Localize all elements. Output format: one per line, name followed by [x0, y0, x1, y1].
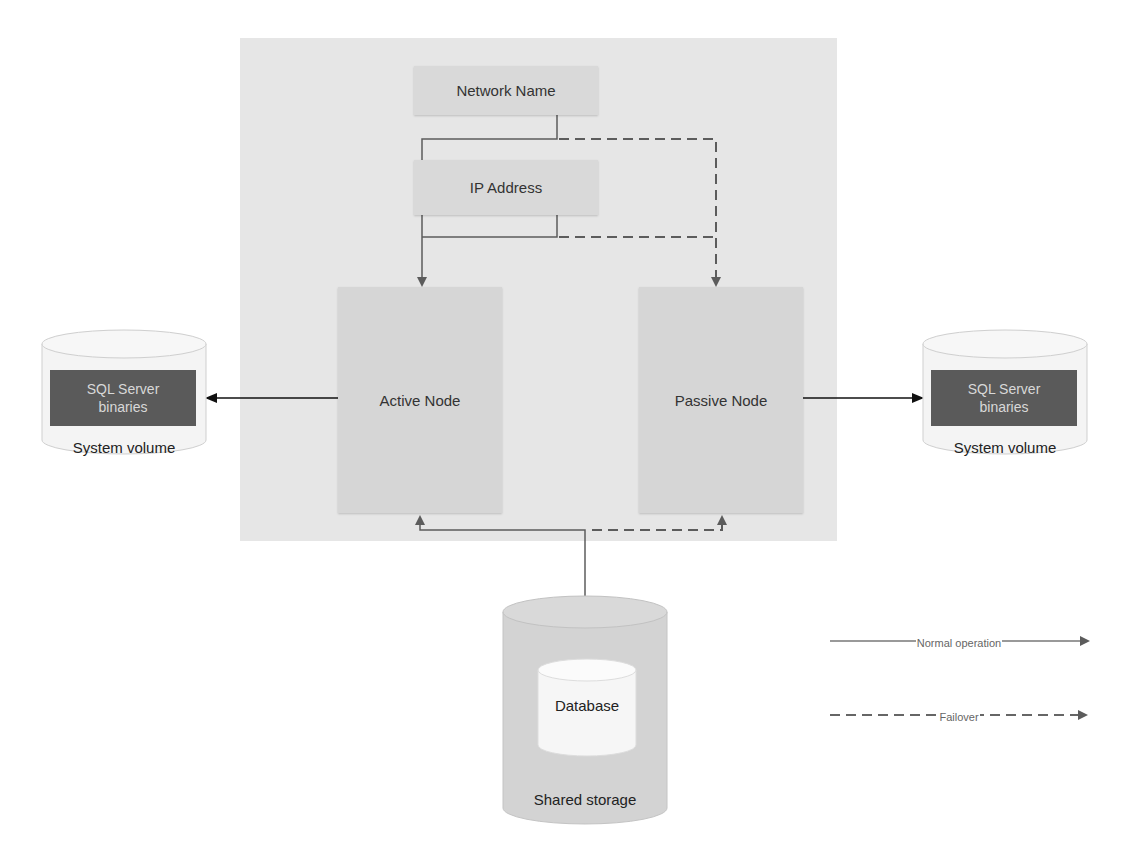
ip-address-label: IP Address [470, 179, 542, 196]
active-node-label: Active Node [380, 392, 461, 409]
legend-failover-label: Failover [938, 711, 979, 723]
legend-normal: Normal operation [830, 633, 1088, 651]
left-binaries-box: SQL Server binaries [50, 370, 196, 426]
network-name-box: Network Name [414, 66, 598, 115]
database-label: Database [538, 697, 636, 714]
passive-node-label: Passive Node [675, 392, 768, 409]
ip-address-box: IP Address [414, 160, 598, 215]
left-binaries-line2: binaries [50, 398, 196, 416]
shared-storage-label: Shared storage [503, 791, 667, 808]
legend-normal-label: Normal operation [916, 637, 1002, 649]
right-system-volume-label: System volume [923, 439, 1087, 456]
right-binaries-line2: binaries [931, 398, 1077, 416]
active-node-box: Active Node [338, 287, 502, 513]
right-binaries-line1: SQL Server [931, 380, 1077, 398]
left-binaries-line1: SQL Server [50, 380, 196, 398]
left-system-volume-label: System volume [42, 439, 206, 456]
network-name-label: Network Name [456, 82, 555, 99]
passive-node-box: Passive Node [639, 287, 803, 513]
right-binaries-box: SQL Server binaries [931, 370, 1077, 426]
legend-failover: Failover [830, 707, 1088, 725]
